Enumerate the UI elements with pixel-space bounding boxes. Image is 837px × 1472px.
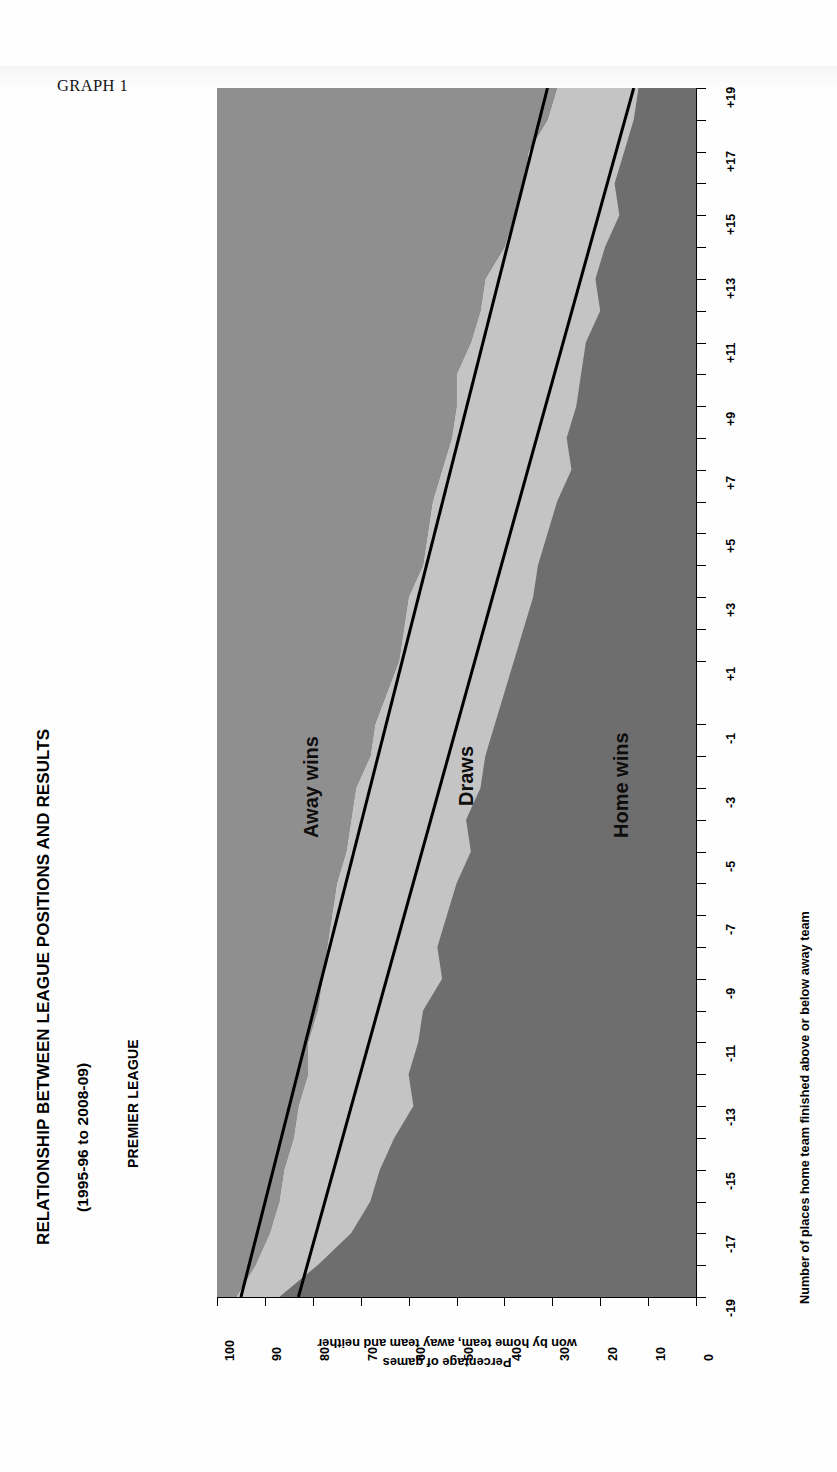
x-axis-tick: [697, 374, 706, 375]
area-series-group: [217, 88, 696, 1297]
x-axis-tick: [697, 756, 706, 757]
x-axis-tick: [697, 152, 706, 153]
series-label-home-wins: Home wins: [610, 732, 633, 838]
graph-caption: GRAPH 1: [57, 76, 128, 96]
y-axis-tick-label: 70: [366, 1347, 380, 1361]
x-axis-tick-label: -1: [724, 733, 738, 744]
x-axis-tick-label: +3: [724, 603, 738, 617]
x-axis-tick: [697, 1170, 706, 1171]
x-axis-spine: [696, 88, 697, 1298]
x-axis-tick: [697, 406, 706, 407]
y-axis-tick-label: 80: [318, 1347, 332, 1361]
x-axis-tick: [697, 661, 706, 662]
x-axis-tick: [697, 1011, 706, 1012]
y-axis-title-line2: won by home team, away team and neither: [182, 1334, 712, 1353]
x-axis-tick: [697, 502, 706, 503]
x-axis-tick-label: -11: [724, 1045, 738, 1062]
x-axis-tick-label: -19: [724, 1299, 738, 1317]
document-page: GRAPH 1 RELATIONSHIP BETWEEN LEAGUE POSI…: [0, 0, 837, 1472]
x-axis-tick: [697, 1297, 706, 1298]
x-axis-tick: [697, 565, 706, 566]
x-axis-tick: [697, 533, 706, 534]
y-axis-tick-label: 90: [270, 1347, 284, 1361]
chart-subtitle: (1995-96 to 2008-09): [74, 1063, 92, 1212]
y-axis-tick-label: 0: [702, 1354, 716, 1361]
y-axis-tick: [409, 1297, 410, 1306]
x-axis-tick-label: -3: [724, 797, 738, 808]
x-axis-tick-label: -15: [724, 1172, 738, 1190]
x-axis-tick: [697, 470, 706, 471]
x-axis-tick: [697, 915, 706, 916]
y-axis-tick: [504, 1297, 505, 1306]
x-axis-tick: [697, 120, 706, 121]
x-axis-tick-label: -13: [724, 1108, 738, 1126]
x-axis-tick: [697, 1265, 706, 1266]
x-axis-tick-label: +9: [724, 412, 738, 426]
x-axis-tick: [697, 279, 706, 280]
y-axis-tick-label: 10: [654, 1347, 668, 1361]
x-axis-tick: [697, 311, 706, 312]
y-axis-title: Percentage of games won by home team, aw…: [182, 1334, 712, 1372]
x-axis-tick: [697, 820, 706, 821]
x-axis-tick: [697, 852, 706, 853]
x-axis-tick-label: -17: [724, 1235, 738, 1253]
x-axis-tick: [697, 1042, 706, 1043]
y-axis-tick: [265, 1297, 266, 1306]
y-axis-tick: [696, 1297, 697, 1306]
x-axis-tick: [697, 883, 706, 884]
x-axis-tick-label: +7: [724, 476, 738, 490]
x-axis-tick: [697, 1106, 706, 1107]
x-axis-tick-label: +5: [724, 539, 738, 553]
y-axis-tick-label: 20: [606, 1347, 620, 1361]
x-axis-tick: [697, 1074, 706, 1075]
y-axis-tick: [457, 1297, 458, 1306]
x-axis-title: Number of places home team finished abov…: [798, 911, 812, 1304]
x-axis-tick: [697, 343, 706, 344]
y-axis-title-line1: Percentage of games: [182, 1353, 712, 1372]
y-axis-tick-label: 60: [414, 1347, 428, 1361]
x-axis-tick: [697, 88, 706, 89]
x-axis-tick: [697, 215, 706, 216]
y-axis-tick: [648, 1297, 649, 1306]
x-axis-tick: [697, 724, 706, 725]
x-axis-tick: [697, 183, 706, 184]
series-label-away-wins: Away wins: [300, 736, 323, 838]
x-axis-tick: [697, 1202, 706, 1203]
x-axis-tick-label: +13: [724, 278, 738, 299]
x-axis-tick: [697, 1138, 706, 1139]
x-axis-tick: [697, 629, 706, 630]
y-axis-tick: [217, 1297, 218, 1306]
x-axis-tick: [697, 1233, 706, 1234]
x-axis-tick-label: +15: [724, 214, 738, 235]
x-axis-tick: [697, 438, 706, 439]
league-label: PREMIER LEAGUE: [125, 1039, 141, 1168]
stacked-area-chart: [217, 88, 696, 1297]
x-axis-tick-label: -7: [724, 924, 738, 935]
y-axis-tick-label: 40: [510, 1347, 524, 1361]
x-axis-tick: [697, 788, 706, 789]
x-axis-tick: [697, 247, 706, 248]
y-axis-tick: [361, 1297, 362, 1306]
x-axis-tick: [697, 979, 706, 980]
x-axis-tick-label: -5: [724, 861, 738, 872]
x-axis-tick-label: +19: [724, 87, 738, 108]
x-axis-tick-label: +1: [724, 667, 738, 681]
y-axis-tick: [313, 1297, 314, 1306]
y-axis-tick-label: 100: [223, 1340, 237, 1361]
chart-title: RELATIONSHIP BETWEEN LEAGUE POSITIONS AN…: [34, 729, 54, 1245]
chart-plot-area: [217, 88, 696, 1297]
series-label-draws: Draws: [455, 746, 478, 806]
y-axis-tick-label: 50: [462, 1347, 476, 1361]
x-axis-tick: [697, 947, 706, 948]
x-axis-tick: [697, 597, 706, 598]
y-axis-tick: [552, 1297, 553, 1306]
y-axis-tick-label: 30: [558, 1347, 572, 1361]
y-axis-tick: [600, 1297, 601, 1306]
x-axis-tick-label: -9: [724, 988, 738, 999]
x-axis-tick-label: +17: [724, 151, 738, 172]
x-axis-tick-label: +11: [724, 342, 738, 362]
